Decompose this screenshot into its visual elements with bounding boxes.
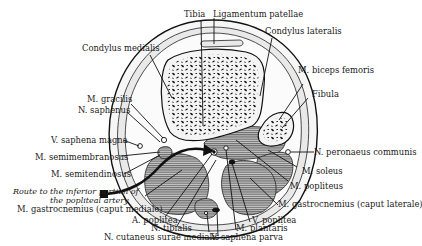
n-peronaeus-communis-shape <box>286 150 291 155</box>
label-fibula: Fibula <box>312 89 339 99</box>
label-m-gracilis: M. gracilis <box>87 94 132 104</box>
label-v-saphena-parva: V. saphena parva <box>210 232 283 242</box>
label-tibia: Tibia <box>184 9 205 19</box>
label-m-semimembranosus: M. semimembranosus <box>35 152 128 162</box>
ligamentum-patellae-shape <box>201 40 243 47</box>
m-gracilis-tendon-shape <box>161 137 166 142</box>
label-m-soleus: M. soleus <box>302 166 343 176</box>
label-m-semitendinosus: M. semitendinosus <box>51 169 131 179</box>
label-n-saphenus: N. saphenus <box>78 105 130 115</box>
label-v-saphena-magna: V. saphena magna <box>50 135 128 145</box>
anatomy-cross-section-figure: Tibia Ligamentum patellae Condylus media… <box>0 0 422 246</box>
label-m-gastrocnemius-mediale: M. gastrocnemius (caput mediale) <box>17 204 163 214</box>
label-m-gastrocnemius-laterale: M. gastrocnemius (caput laterale) <box>278 199 422 209</box>
label-condylus-medialis: Condylus medialis <box>82 43 160 53</box>
label-m-biceps-femoris: M. biceps femoris <box>298 65 374 75</box>
label-n-peronaeus-communis: N. peronaeus communis <box>314 147 417 157</box>
n-tibialis-shape <box>224 146 228 150</box>
label-condylus-lateralis: Condylus lateralis <box>265 26 342 36</box>
label-ligamentum-patellae: Ligamentum patellae <box>213 9 303 19</box>
label-route-line-1: Route to the inferior portion of <box>12 187 141 196</box>
label-m-popliteus: M. popliteus <box>290 181 343 191</box>
v-saphena-parva-shape <box>212 208 219 212</box>
label-n-cutaneus-surae-medialis: N. cutaneus surae medialis <box>104 232 219 242</box>
